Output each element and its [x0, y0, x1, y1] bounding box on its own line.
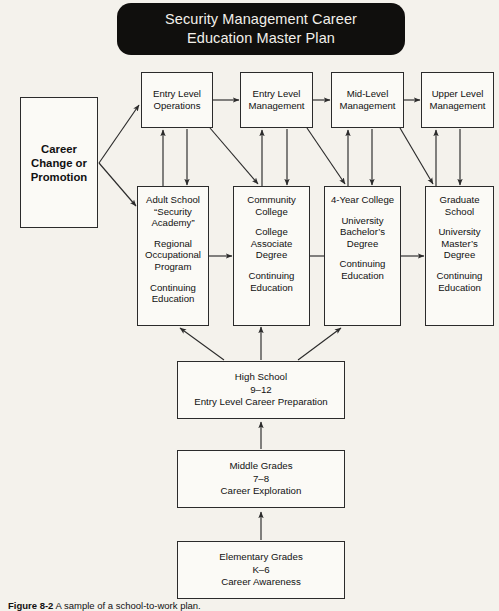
four-year-college-continuing-education: Continuing Education — [340, 258, 386, 281]
high-school-label: High School 9–12 Entry Level Career Prep… — [194, 371, 328, 408]
banner-title: Security Management Career Education Mas… — [165, 10, 357, 48]
adult-school-continuing-education: Continuing Education — [150, 282, 196, 305]
four-year-college-title: 4-Year College — [331, 194, 394, 206]
arrow-career-to-adult-school — [99, 163, 136, 206]
mid-level-management-label: Mid-Level Management — [340, 88, 396, 111]
node-upper-level-management: Upper Level Management — [421, 72, 494, 128]
entry-level-management-label: Entry Level Management — [249, 88, 305, 111]
community-college-title: Community College — [247, 194, 296, 217]
node-community-college: Community College College Associate Degr… — [233, 186, 310, 326]
graduate-school-title: Graduate School — [439, 194, 479, 217]
figure-caption-text: A sample of a school-to-work plan. — [56, 600, 201, 611]
middle-grades-label: Middle Grades 7–8 Career Exploration — [221, 460, 302, 497]
figure-caption-label: Figure 8-2 — [8, 600, 53, 611]
figure-caption: Figure 8-2 A sample of a school-to-work … — [8, 600, 201, 611]
node-mid-level-management: Mid-Level Management — [331, 72, 404, 128]
upper-level-management-label: Upper Level Management — [430, 88, 486, 111]
node-graduate-school: Graduate School University Master’s Degr… — [425, 186, 494, 326]
adult-school-program: Regional Occupational Program — [145, 238, 201, 273]
node-entry-level-operations: Entry Level Operations — [141, 72, 213, 128]
elementary-grades-label: Elementary Grades K–6 Career Awareness — [219, 551, 302, 588]
arrow-high-school-to-four-year-college — [298, 328, 341, 360]
community-college-continuing-education: Continuing Education — [249, 270, 295, 293]
graduate-school-continuing-education: Continuing Education — [437, 270, 483, 293]
adult-school-title: Adult School “Security Academy” — [146, 194, 200, 229]
node-adult-school: Adult School “Security Academy” Regional… — [137, 186, 209, 326]
arrow-mid-level-to-graduate-school — [400, 128, 433, 184]
entry-level-operations-label: Entry Level Operations — [153, 88, 201, 111]
arrow-entry-operations-to-community-college — [210, 128, 258, 184]
arrow-high-school-to-adult-school — [180, 328, 224, 360]
career-label: Career Change or Promotion — [31, 142, 87, 184]
community-college-degree: College Associate Degree — [251, 226, 293, 261]
four-year-college-degree: University Bachelor’s Degree — [340, 215, 385, 250]
graduate-school-degree: University Master’s Degree — [438, 226, 480, 261]
node-four-year-college: 4-Year College University Bachelor’s Deg… — [324, 186, 401, 326]
arrow-entry-mgmt-to-four-year-college — [307, 128, 345, 184]
node-entry-level-management: Entry Level Management — [240, 72, 313, 128]
node-middle-grades: Middle Grades 7–8 Career Exploration — [177, 450, 345, 508]
title-banner: Security Management Career Education Mas… — [117, 3, 405, 55]
node-career-change-or-promotion: Career Change or Promotion — [20, 97, 98, 228]
node-high-school: High School 9–12 Entry Level Career Prep… — [177, 361, 345, 419]
node-elementary-grades: Elementary Grades K–6 Career Awareness — [177, 541, 345, 599]
arrow-career-to-entry-operations — [99, 105, 139, 163]
